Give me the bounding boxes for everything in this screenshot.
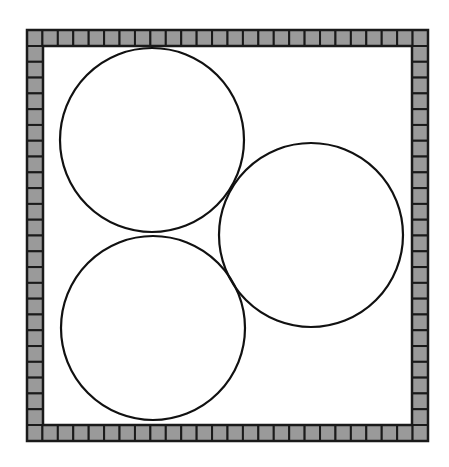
circles-in-square-diagram — [0, 0, 449, 467]
border-tile — [27, 425, 42, 441]
border-tile — [274, 425, 289, 441]
border-tile — [120, 30, 135, 46]
border-tile — [27, 330, 43, 346]
border-tile — [104, 425, 119, 441]
border-tile — [27, 236, 43, 252]
border-tile — [58, 425, 73, 441]
border-tile — [27, 141, 43, 157]
border-tile — [258, 425, 273, 441]
border-tile — [58, 30, 73, 46]
border-tile — [181, 425, 196, 441]
border-tile — [335, 425, 350, 441]
border-tile — [27, 62, 43, 78]
border-tile — [412, 346, 428, 362]
border-tile — [412, 78, 428, 94]
border-tile — [412, 109, 428, 125]
border-tile — [412, 251, 428, 267]
border-tile — [305, 30, 320, 46]
border-tile — [351, 425, 366, 441]
border-tile — [412, 283, 428, 299]
border-tile — [27, 299, 43, 315]
border-tile — [320, 30, 335, 46]
border-tile — [228, 425, 243, 441]
border-tile — [27, 204, 43, 220]
border-tile — [181, 30, 196, 46]
border-tile — [413, 425, 428, 441]
border-tile — [320, 425, 335, 441]
border-tile — [27, 109, 43, 125]
border-tile — [397, 30, 412, 46]
border-tile — [412, 409, 428, 425]
border-tile — [27, 267, 43, 283]
border-tile — [412, 141, 428, 157]
border-tile — [412, 267, 428, 283]
border-tile — [73, 425, 88, 441]
border-tile — [135, 30, 150, 46]
border-tile — [412, 299, 428, 315]
border-tile — [197, 425, 212, 441]
border-tile — [243, 425, 258, 441]
border-tile — [289, 30, 304, 46]
border-tile — [305, 425, 320, 441]
border-tile — [382, 425, 397, 441]
border-tile — [412, 93, 428, 109]
border-tile — [412, 378, 428, 394]
border-tile — [412, 172, 428, 188]
border-tile — [351, 30, 366, 46]
border-tile — [412, 188, 428, 204]
border-tile — [212, 425, 227, 441]
border-tile — [335, 30, 350, 46]
border-tile — [412, 125, 428, 141]
border-tile — [150, 30, 165, 46]
border-tile — [412, 204, 428, 220]
border-tile — [27, 30, 42, 46]
border-tile — [166, 30, 181, 46]
border-tile — [412, 46, 428, 62]
border-tile — [397, 425, 412, 441]
border-tile — [197, 30, 212, 46]
border-tile — [243, 30, 258, 46]
border-tile — [89, 425, 104, 441]
border-tile — [382, 30, 397, 46]
border-tile — [27, 93, 43, 109]
border-tile — [212, 30, 227, 46]
border-tile — [27, 172, 43, 188]
border-tile — [412, 393, 428, 409]
border-tile — [73, 30, 88, 46]
border-tile — [289, 425, 304, 441]
border-tile — [120, 425, 135, 441]
border-tile — [27, 220, 43, 236]
border-tile — [412, 362, 428, 378]
border-tile — [412, 330, 428, 346]
border-tile — [27, 251, 43, 267]
border-tile — [27, 393, 43, 409]
border-tile — [42, 425, 57, 441]
border-tile — [166, 425, 181, 441]
border-tile — [412, 220, 428, 236]
border-tile — [104, 30, 119, 46]
border-tile — [27, 78, 43, 94]
border-tile — [27, 283, 43, 299]
border-tile — [27, 409, 43, 425]
frame-inner-area — [43, 46, 412, 425]
border-tile — [258, 30, 273, 46]
tiled-square-frame — [27, 30, 428, 441]
border-tile — [27, 157, 43, 173]
border-tile — [366, 425, 381, 441]
border-tile — [412, 314, 428, 330]
border-tile — [27, 346, 43, 362]
border-tile — [27, 125, 43, 141]
border-tile — [366, 30, 381, 46]
border-tile — [150, 425, 165, 441]
border-tile — [413, 30, 428, 46]
border-tile — [27, 378, 43, 394]
border-tile — [412, 157, 428, 173]
border-tile — [89, 30, 104, 46]
border-tile — [228, 30, 243, 46]
border-tile — [27, 314, 43, 330]
border-tile — [27, 188, 43, 204]
border-tile — [412, 236, 428, 252]
border-tile — [274, 30, 289, 46]
border-tile — [27, 362, 43, 378]
border-tile — [412, 62, 428, 78]
